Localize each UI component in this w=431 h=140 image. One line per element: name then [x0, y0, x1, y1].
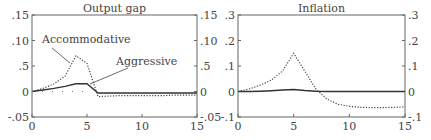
y-tick-label-right: .10	[200, 35, 218, 48]
y-tick-label-left: .3	[225, 9, 236, 22]
y-tick-label-right: 0	[408, 86, 415, 99]
y-tick-label-right: .3	[408, 9, 419, 22]
y-tick-label-right: .2	[408, 35, 419, 48]
x-tick-label: 10	[342, 120, 356, 133]
chart-title: Inflation	[298, 2, 345, 15]
chart-figure: Output gap051015-.05-.0500.5.5.10.10.15.…	[0, 0, 431, 140]
y-tick-label-right: -.05	[200, 111, 221, 124]
y-tick-label-right: .5	[200, 60, 211, 73]
annotation-accommodative: Accommodative	[41, 33, 131, 46]
y-tick-label-left: .2	[225, 35, 236, 48]
x-tick-label: 5	[290, 120, 297, 133]
series-aggressive	[32, 84, 197, 93]
y-tick-label-left: .15	[12, 9, 30, 22]
annotation-aggressive: Aggressive	[115, 55, 177, 68]
series-accommodative	[238, 53, 405, 107]
x-tick-label: 0	[29, 120, 36, 133]
y-tick-label-left: 0	[22, 86, 29, 99]
y-tick-label-right: .1	[408, 60, 419, 73]
x-tick-label: 0	[235, 120, 242, 133]
plot-frame	[238, 15, 405, 117]
x-tick-label: 10	[135, 120, 149, 133]
panel-inflation: Inflation051015-.1-.100.1.1.2.2.3.3	[221, 2, 422, 133]
y-tick-label-left: -.05	[8, 111, 29, 124]
y-tick-label-right: -.1	[408, 111, 422, 124]
y-tick-label-right: .15	[200, 9, 218, 22]
y-tick-label-left: .5	[19, 60, 30, 73]
y-tick-label-left: .1	[225, 60, 236, 73]
y-tick-label-left: -.1	[221, 111, 235, 124]
y-tick-label-left: .10	[12, 35, 30, 48]
x-tick-label: 5	[84, 120, 91, 133]
panel-output-gap: Output gap051015-.05-.0500.5.5.10.10.15.…	[8, 2, 221, 133]
series-aggressive	[238, 90, 405, 92]
chart-title: Output gap	[83, 2, 146, 15]
y-tick-label-left: 0	[228, 86, 235, 99]
y-tick-label-right: 0	[200, 86, 207, 99]
